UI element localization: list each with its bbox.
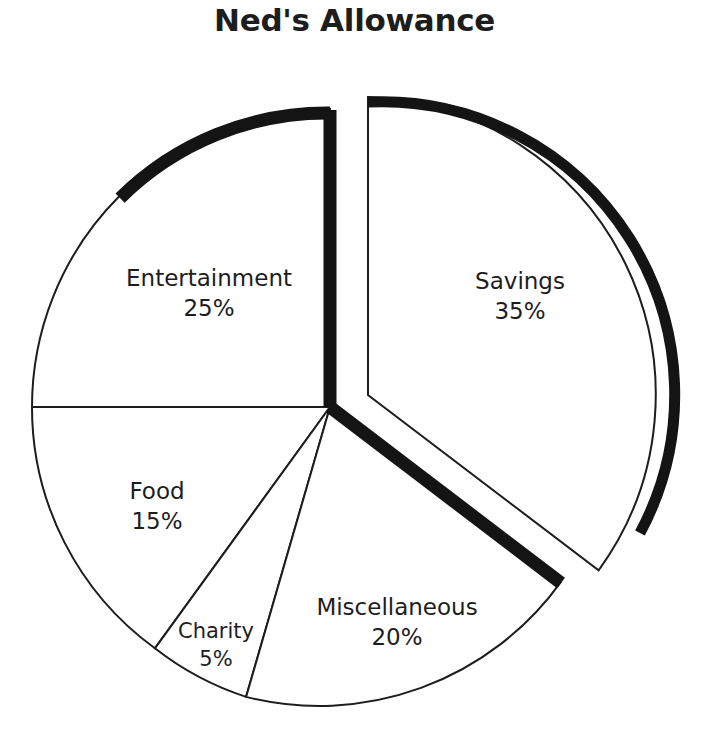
- slice-label-food: Food 15%: [129, 476, 184, 536]
- slice-label-savings-value: 35%: [475, 296, 565, 326]
- slice-label-miscellaneous-value: 20%: [316, 622, 477, 652]
- slice-label-miscellaneous-name: Miscellaneous: [316, 592, 477, 622]
- slice-label-food-value: 15%: [129, 506, 184, 536]
- pie-chart-figure: Ned's Allowance Savings 35% Entertainmen…: [0, 0, 709, 741]
- slice-label-entertainment-value: 25%: [126, 293, 292, 323]
- slice-label-food-name: Food: [129, 476, 184, 506]
- slice-label-charity-value: 5%: [178, 645, 254, 673]
- slice-label-entertainment: Entertainment 25%: [126, 263, 292, 323]
- slice-label-savings: Savings 35%: [475, 266, 565, 326]
- slice-label-charity-name: Charity: [178, 617, 254, 645]
- slice-label-charity: Charity 5%: [178, 617, 254, 673]
- slice-label-miscellaneous: Miscellaneous 20%: [316, 592, 477, 652]
- slice-label-entertainment-name: Entertainment: [126, 263, 292, 293]
- slice-label-savings-name: Savings: [475, 266, 565, 296]
